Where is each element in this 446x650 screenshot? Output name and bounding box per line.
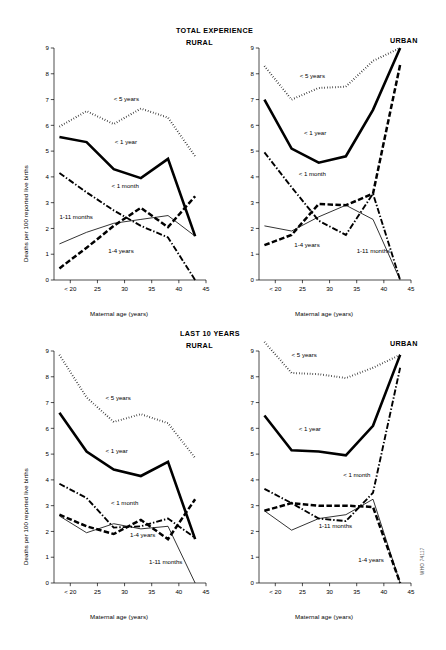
series-annotation-label: 1-11 months xyxy=(357,247,390,254)
plot-area-last10-urban: 0123456789< 202530354045< 5 years< 1 yea… xyxy=(237,347,417,605)
x-axis-tick-label: 45 xyxy=(408,285,415,292)
series-line xyxy=(59,413,195,539)
series-annotation-label: < 5 years xyxy=(106,394,131,401)
y-axis-tick-label: 3 xyxy=(45,199,49,206)
series-line xyxy=(59,484,195,538)
y-axis-tick-label: 6 xyxy=(250,425,254,432)
y-axis-tick-label: 6 xyxy=(45,425,49,432)
y-axis-tick-label: 4 xyxy=(250,476,254,483)
x-axis-tick-label: 35 xyxy=(353,588,360,595)
y-axis-tick-label: 5 xyxy=(45,450,49,457)
x-axis-label-last10-urban: Maternal age (years) xyxy=(295,613,353,620)
y-axis-tick-label: 2 xyxy=(45,225,49,232)
x-axis-tick-label: < 20 xyxy=(269,588,282,595)
y-axis-tick-label: 4 xyxy=(45,476,49,483)
series-annotation-label: < 1 year xyxy=(115,138,137,145)
x-axis-tick-label: < 20 xyxy=(64,285,77,292)
x-axis-tick-label: 35 xyxy=(148,285,155,292)
y-axis-tick-label: 2 xyxy=(250,225,254,232)
plot-area-total-rural: 0123456789< 202530354045< 5 years< 1 yea… xyxy=(32,44,212,302)
series-line xyxy=(59,196,195,268)
x-axis-tick-label: 40 xyxy=(175,588,182,595)
y-axis-label-bottom-left: Deaths per 100 reported live births xyxy=(22,468,29,565)
y-axis-tick-label: 9 xyxy=(250,347,254,354)
x-axis-tick-label: 25 xyxy=(299,588,306,595)
y-axis-tick-label: 7 xyxy=(250,96,254,103)
y-axis-tick-label: 8 xyxy=(45,373,49,380)
y-axis-tick-label: 5 xyxy=(250,450,254,457)
x-axis-tick-label: 25 xyxy=(94,285,101,292)
series-line xyxy=(264,503,400,583)
x-axis-tick-label: < 20 xyxy=(64,588,77,595)
y-axis-tick-label: 5 xyxy=(250,147,254,154)
y-axis-tick-label: 6 xyxy=(45,122,49,129)
y-axis-tick-label: 4 xyxy=(45,173,49,180)
y-axis-tick-label: 9 xyxy=(45,44,49,51)
x-axis-tick-label: 35 xyxy=(353,285,360,292)
plot-area-total-urban: 0123456789< 202530354045< 5 years< 1 yea… xyxy=(237,44,417,302)
series-annotation-label: < 5 years xyxy=(300,72,325,79)
chart-total-rural: 0123456789< 202530354045< 5 years< 1 yea… xyxy=(32,44,212,302)
y-axis-tick-label: 0 xyxy=(250,276,254,283)
y-axis-tick-label: 9 xyxy=(45,347,49,354)
x-axis-tick-label: 25 xyxy=(299,285,306,292)
x-axis-tick-label: 40 xyxy=(380,588,387,595)
y-axis-tick-label: 2 xyxy=(250,528,254,535)
figure-root: TOTAL EXPERIENCE LAST 10 YEARS RURAL URB… xyxy=(0,0,446,650)
y-axis-tick-label: 2 xyxy=(45,528,49,535)
x-axis-tick-label: 30 xyxy=(326,285,333,292)
x-axis-tick-label: 30 xyxy=(121,285,128,292)
series-annotation-label: 1-11 months xyxy=(319,522,352,529)
x-axis-tick-label: 45 xyxy=(203,588,210,595)
y-axis-tick-label: 5 xyxy=(45,147,49,154)
y-axis-tick-label: 1 xyxy=(250,553,254,560)
x-axis-tick-label: 30 xyxy=(121,588,128,595)
series-annotation-label: < 1 year xyxy=(299,425,321,432)
y-axis-label-top-left: Deaths per 100 reported live births xyxy=(22,165,29,262)
series-line xyxy=(264,342,400,378)
series-annotation-label: < 1 month xyxy=(299,170,326,177)
y-axis-tick-label: 8 xyxy=(45,70,49,77)
y-axis-tick-label: 3 xyxy=(250,199,254,206)
x-axis-label-last10-rural: Maternal age (years) xyxy=(90,613,148,620)
x-axis-tick-label: 40 xyxy=(380,285,387,292)
chart-last10-urban: 0123456789< 202530354045< 5 years< 1 yea… xyxy=(237,347,417,605)
x-axis-tick-label: 25 xyxy=(94,588,101,595)
chart-total-urban: 0123456789< 202530354045< 5 years< 1 yea… xyxy=(237,44,417,302)
y-axis-tick-label: 6 xyxy=(250,122,254,129)
section-title-last-10-years: LAST 10 YEARS xyxy=(180,329,240,338)
x-axis-label-total-rural: Maternal age (years) xyxy=(90,310,148,317)
y-axis-tick-label: 1 xyxy=(45,250,49,257)
section-title-total-experience: TOTAL EXPERIENCE xyxy=(176,26,253,35)
series-annotation-label: < 1 year xyxy=(304,129,326,136)
x-axis-tick-label: < 20 xyxy=(269,285,282,292)
y-axis-tick-label: 9 xyxy=(250,44,254,51)
series-annotation-label: 1-4 years xyxy=(108,247,133,254)
series-annotation-label: < 1 month xyxy=(111,499,138,506)
series-line xyxy=(264,355,400,456)
series-annotation-label: < 1 month xyxy=(112,182,139,189)
y-axis-tick-label: 1 xyxy=(250,250,254,257)
x-axis-label-total-urban: Maternal age (years) xyxy=(295,310,353,317)
y-axis-tick-label: 0 xyxy=(250,579,254,586)
series-annotation-label: < 5 years xyxy=(114,95,139,102)
series-line xyxy=(264,368,400,521)
x-axis-tick-label: 40 xyxy=(175,285,182,292)
y-axis-tick-label: 4 xyxy=(250,173,254,180)
series-line xyxy=(264,499,400,583)
series-line xyxy=(59,109,195,157)
series-annotation-label: < 5 years xyxy=(292,351,317,358)
x-axis-tick-label: 35 xyxy=(148,588,155,595)
series-line xyxy=(264,152,400,280)
figure-code: WHO 74117 xyxy=(420,547,425,575)
y-axis-tick-label: 3 xyxy=(45,502,49,509)
series-annotation-label: 1-4 years xyxy=(358,556,383,563)
x-axis-tick-label: 45 xyxy=(408,588,415,595)
y-axis-tick-label: 7 xyxy=(45,399,49,406)
y-axis-tick-label: 0 xyxy=(45,579,49,586)
series-annotation-label: 1-4 years xyxy=(294,241,319,248)
series-line xyxy=(264,48,400,163)
x-axis-tick-label: 45 xyxy=(203,285,210,292)
series-annotation-label: 1-11 months xyxy=(149,558,182,565)
y-axis-tick-label: 7 xyxy=(250,399,254,406)
